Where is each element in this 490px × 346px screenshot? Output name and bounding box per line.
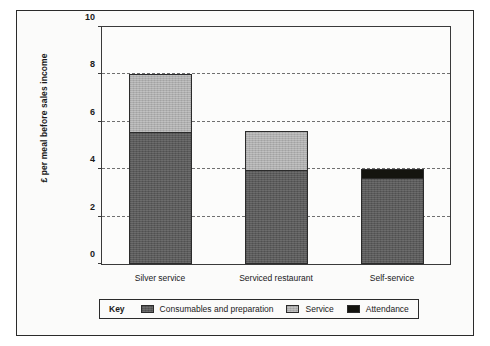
legend-swatch-icon	[286, 305, 299, 313]
bar-segment-consumables-and-preparation	[246, 170, 307, 263]
y-tick-label-4: 4	[90, 154, 95, 164]
legend-key-label: Key	[109, 304, 125, 314]
chart-figure-frame: £ per meal before sales income 0246810Si…	[16, 10, 474, 336]
plot-area: 0246810Silver serviceServiced restaurant…	[102, 27, 450, 264]
bar-segment-consumables-and-preparation	[130, 132, 191, 263]
bar-serviced-restaurant	[245, 131, 308, 264]
legend-entry-attendance: Attendance	[347, 304, 409, 314]
y-tick-mark-0	[98, 263, 102, 264]
legend-label: Service	[305, 304, 333, 314]
y-tick-label-0: 0	[90, 249, 95, 259]
y-tick-mark-4	[98, 168, 102, 169]
bar-segment-service	[130, 75, 191, 131]
x-axis-label-silver-service: Silver service	[135, 273, 186, 283]
legend-entry-consumables-and-preparation: Consumables and preparation	[141, 304, 274, 314]
bar-segment-service	[246, 132, 307, 169]
legend-entry-service: Service	[286, 304, 333, 314]
x-axis-label-serviced-restaurant: Serviced restaurant	[239, 273, 313, 283]
legend-label: Attendance	[366, 304, 409, 314]
bar-self-service	[361, 169, 424, 264]
y-tick-label-10: 10	[85, 12, 95, 22]
y-tick-label-2: 2	[90, 202, 95, 212]
chart-legend: Key Consumables and preparationServiceAt…	[99, 299, 419, 319]
y-tick-mark-8	[98, 73, 102, 74]
bar-segment-consumables-and-preparation	[362, 178, 423, 263]
bar-silver-service	[129, 74, 192, 264]
y-tick-mark-6	[98, 121, 102, 122]
y-tick-label-6: 6	[90, 107, 95, 117]
y-tick-label-8: 8	[90, 59, 95, 69]
plot-frame: 0246810Silver serviceServiced restaurant…	[101, 26, 451, 265]
y-axis-title: £ per meal before sales income	[39, 28, 49, 208]
x-axis-label-self-service: Self-service	[370, 273, 414, 283]
legend-label: Consumables and preparation	[160, 304, 274, 314]
legend-swatch-icon	[141, 305, 154, 313]
y-tick-mark-10	[98, 26, 102, 27]
y-tick-mark-2	[98, 216, 102, 217]
bar-segment-attendance	[362, 170, 423, 178]
legend-swatch-icon	[347, 305, 360, 313]
